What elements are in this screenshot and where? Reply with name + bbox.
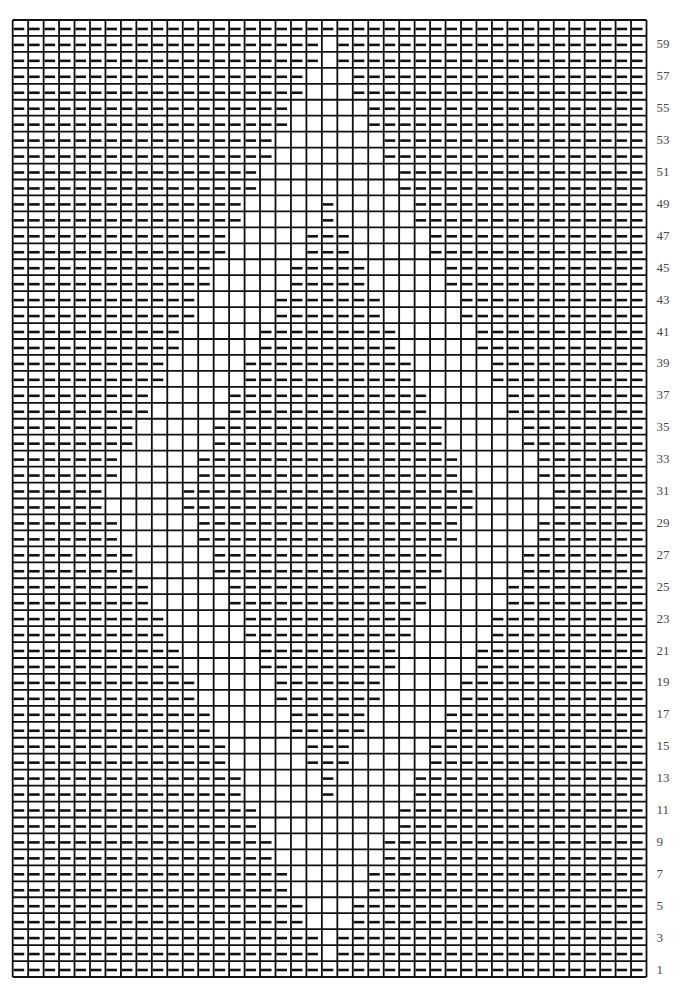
purl-stitch (60, 123, 71, 126)
purl-stitch (307, 714, 318, 717)
purl-stitch (230, 793, 241, 796)
purl-stitch (215, 123, 226, 126)
purl-stitch (106, 602, 117, 605)
purl-stitch (137, 155, 148, 158)
purl-stitch (354, 714, 365, 717)
knit-stitch (153, 484, 166, 498)
purl-stitch (307, 586, 318, 589)
purl-stitch (555, 857, 566, 860)
purl-stitch (14, 554, 25, 557)
purl-stitch (307, 458, 318, 461)
purl-stitch (261, 363, 272, 366)
purl-stitch (106, 219, 117, 222)
knit-stitch (323, 898, 336, 912)
purl-stitch (199, 490, 210, 493)
purl-stitch (91, 299, 102, 302)
purl-stitch (45, 841, 56, 844)
purl-stitch (246, 809, 257, 812)
purl-stitch (199, 44, 210, 47)
purl-stitch (338, 554, 349, 557)
purl-stitch (508, 187, 519, 190)
purl-stitch (416, 123, 427, 126)
purl-stitch (60, 921, 71, 924)
knit-stitch (447, 563, 460, 577)
purl-stitch (122, 650, 133, 653)
purl-stitch (199, 107, 210, 110)
purl-stitch (447, 490, 458, 493)
purl-stitch (60, 60, 71, 63)
purl-stitch (400, 937, 411, 940)
purl-stitch (400, 570, 411, 573)
purl-stitch (215, 522, 226, 525)
purl-stitch (323, 379, 334, 382)
knit-stitch (416, 372, 429, 386)
purl-stitch (508, 777, 519, 780)
purl-stitch (601, 650, 612, 653)
purl-stitch (586, 235, 597, 238)
purl-stitch (570, 937, 581, 940)
purl-stitch (539, 267, 550, 270)
purl-stitch (539, 315, 550, 318)
purl-stitch (416, 969, 427, 972)
purl-stitch (632, 76, 643, 79)
purl-stitch (60, 745, 71, 748)
purl-stitch (477, 107, 488, 110)
purl-stitch (524, 937, 535, 940)
purl-stitch (153, 905, 164, 908)
knit-stitch (462, 579, 475, 593)
purl-stitch (106, 283, 117, 286)
purl-stitch (462, 139, 473, 142)
knit-stitch (261, 691, 274, 705)
purl-stitch (60, 969, 71, 972)
knit-stitch (416, 324, 429, 338)
purl-stitch (586, 937, 597, 940)
purl-stitch (184, 506, 195, 509)
knit-stitch (462, 611, 475, 625)
purl-stitch (168, 107, 179, 110)
purl-stitch (276, 107, 287, 110)
knit-stitch (539, 484, 552, 498)
purl-stitch (292, 283, 303, 286)
purl-stitch (261, 331, 272, 334)
purl-stitch (91, 937, 102, 940)
knit-stitch (292, 787, 305, 801)
knit-stitch (184, 452, 197, 466)
purl-stitch (338, 474, 349, 477)
knit-stitch (137, 515, 150, 529)
purl-stitch (447, 873, 458, 876)
purl-stitch (215, 825, 226, 828)
knit-stitch (153, 420, 166, 434)
purl-stitch (632, 155, 643, 158)
purl-stitch (617, 123, 628, 126)
purl-stitch (168, 91, 179, 94)
knit-stitch (153, 579, 166, 593)
purl-stitch (45, 969, 56, 972)
purl-stitch (91, 857, 102, 860)
purl-stitch (45, 331, 56, 334)
knit-stitch (447, 388, 460, 402)
purl-stitch (29, 857, 40, 860)
purl-stitch (493, 363, 504, 366)
knit-stitch (524, 484, 537, 498)
knit-stitch (431, 579, 444, 593)
purl-stitch (60, 857, 71, 860)
purl-stitch (199, 538, 210, 541)
knit-stitch (292, 244, 305, 258)
knit-stitch (323, 914, 336, 928)
purl-stitch (493, 921, 504, 924)
knit-stitch (462, 531, 475, 545)
purl-stitch (632, 187, 643, 190)
purl-stitch (14, 44, 25, 47)
purl-stitch (122, 809, 133, 812)
knit-stitch (184, 468, 197, 482)
purl-stitch (369, 618, 380, 621)
knit-stitch (307, 803, 320, 817)
purl-stitch (354, 283, 365, 286)
purl-stitch (122, 395, 133, 398)
purl-stitch (354, 458, 365, 461)
purl-stitch (323, 682, 334, 685)
knit-stitch (246, 755, 259, 769)
purl-stitch (60, 299, 71, 302)
purl-stitch (307, 299, 318, 302)
purl-stitch (617, 953, 628, 956)
